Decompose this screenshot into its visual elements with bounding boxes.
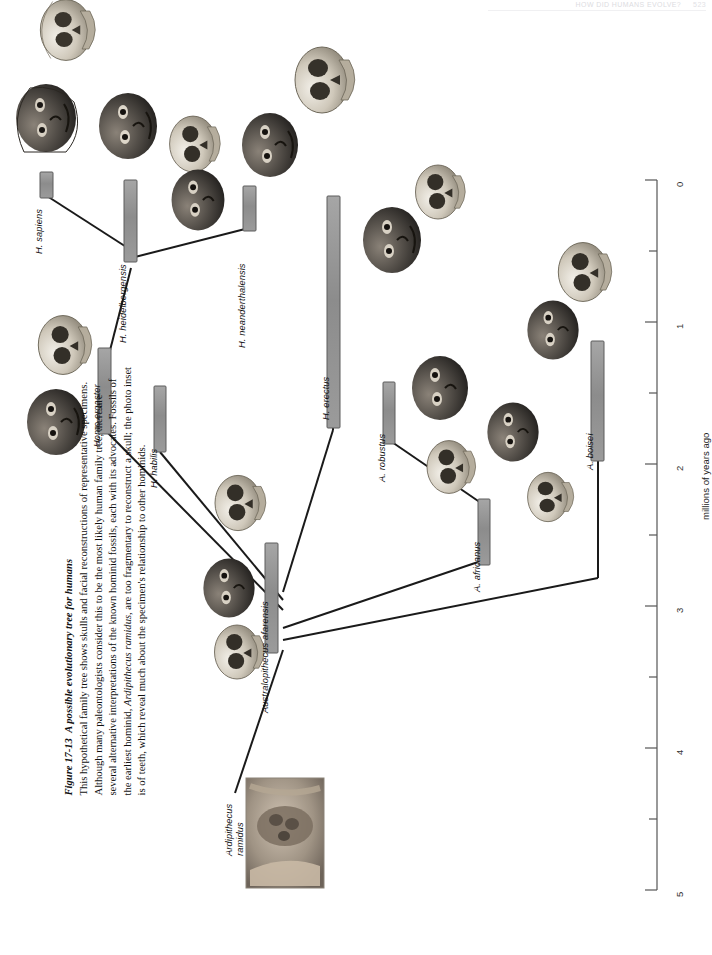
species-label-h-erectus: H. erectus	[321, 377, 331, 420]
species-label-a-africanus: A. africanus	[472, 542, 482, 592]
axis-tick-4: 4	[674, 750, 685, 755]
specimen-skull-h-heidelbergensis	[170, 116, 221, 172]
specimen-face-a-boisei	[527, 301, 578, 360]
caption-body-italic: Ardipithecus ramidus	[121, 615, 132, 706]
specimen-skull-a-robustus	[427, 441, 476, 494]
axis-title-time: millions of years ago	[700, 433, 711, 520]
specimen-face-a-africanus	[487, 403, 538, 462]
figure-page: HOW DID HUMANS EVOLVE?523	[0, 0, 712, 955]
specimen-face-a-afarensis	[203, 559, 254, 618]
species-label-h-neanderthalensis: H. neanderthalensis	[237, 263, 247, 348]
specimen-skull-h-erectus	[416, 165, 466, 219]
specimen-face-a-robustus	[412, 356, 468, 420]
specimen-skull-a-africanus	[528, 472, 574, 521]
axis-tick-2: 2	[674, 466, 685, 471]
axis-tick-1: 1	[674, 324, 685, 329]
species-label-a-boisei: A. boisei	[585, 433, 595, 470]
specimen-face-h-erectus	[363, 207, 421, 273]
axis-tick-5: 5	[674, 892, 685, 897]
axis-tick-0: 0	[674, 182, 685, 187]
species-label-a-afarensis: Australopithecus afarensis	[260, 601, 270, 713]
species-label-ar-ramidus-line2: ramidus	[235, 822, 245, 856]
specimen-skull-a-afarensis	[215, 625, 265, 679]
bar-h-habilis	[154, 386, 166, 452]
figure-title: A possible evolutionary tree for humans	[63, 559, 74, 733]
time-axis	[645, 180, 657, 890]
specimen-face-h-neanderthalensis	[242, 113, 298, 177]
specimen-skull-h-neanderthalensis	[295, 47, 355, 113]
species-label-h-habilis: H. habilis	[149, 449, 159, 488]
specimen-face-h-habilis	[172, 170, 225, 231]
specimen-skull-a-boisei	[558, 243, 611, 302]
photo-inset-group	[246, 778, 324, 888]
specimen-skull-h-habilis	[215, 475, 266, 530]
axis-tick-3: 3	[674, 608, 685, 613]
figure-number: Figure 17-13	[63, 738, 74, 795]
figure-caption: Figure 17-13 A possible evolutionary tre…	[62, 366, 150, 796]
species-label-a-robustus: A. robustus	[377, 434, 387, 482]
figure-caption-block: Figure 17-13 A possible evolutionary tre…	[0, 1, 150, 796]
species-label-ar-ramidus-line1: Ardipithecus	[224, 804, 234, 856]
bar-h-neanderthalensis	[243, 186, 256, 231]
